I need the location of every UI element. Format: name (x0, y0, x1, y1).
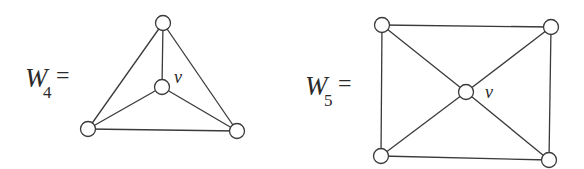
edge (466, 27, 551, 92)
w4-edges (88, 23, 237, 131)
w5-label-subscript: 5 (324, 91, 333, 110)
w4-hub-label: v (174, 67, 182, 87)
edge (381, 156, 549, 160)
vertex-node (375, 18, 390, 33)
vertex-node (156, 16, 171, 31)
graph-w5: W 5 = v (305, 18, 559, 168)
w5-label-equals: = (338, 70, 352, 96)
vertex-node (374, 149, 389, 164)
edge (88, 23, 163, 129)
hub-vertex-node (459, 85, 474, 100)
wheel-graphs-diagram: W 4 = v W 5 = (0, 0, 584, 169)
w4-label-equals: = (56, 62, 70, 88)
edge (88, 129, 237, 131)
edge (381, 25, 382, 156)
vertex-node (542, 153, 557, 168)
edge (162, 87, 237, 131)
graph-w4: W 4 = v (25, 16, 245, 139)
vertex-node (544, 20, 559, 35)
edge (162, 23, 163, 87)
edge (382, 25, 466, 92)
edge (382, 25, 551, 27)
edge (88, 87, 162, 129)
edge (381, 92, 466, 156)
w4-label-subscript: 4 (43, 83, 52, 102)
hub-vertex-node (155, 80, 170, 95)
w5-hub-label: v (485, 82, 493, 102)
edge (549, 27, 551, 160)
edge (466, 92, 549, 160)
vertex-node (230, 124, 245, 139)
vertex-node (81, 122, 96, 137)
